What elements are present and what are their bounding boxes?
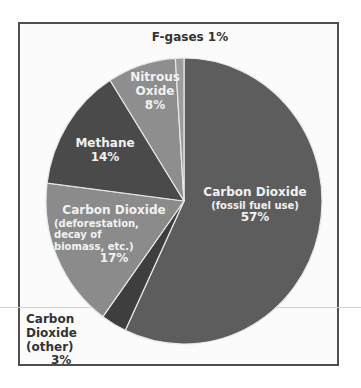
label-nitrous-line2: Oxide — [120, 85, 190, 99]
label-co2-fossil: Carbon Dioxide (fossil fuel use) 57% — [200, 186, 310, 225]
label-methane: Methane 14% — [65, 137, 145, 165]
label-co2-deforestation: Carbon Dioxide (deforestation, decay of … — [54, 204, 174, 266]
label-co2-other-line2: Dioxide (other) — [26, 327, 126, 355]
label-co2-defor-title: Carbon Dioxide — [54, 204, 174, 218]
label-fgases: F-gases 1% — [150, 31, 230, 45]
label-co2-fossil-pct: 57% — [200, 211, 310, 225]
label-methane-title: Methane — [65, 137, 145, 151]
label-nitrous-oxide: Nitrous Oxide 8% — [120, 71, 190, 112]
label-methane-pct: 14% — [65, 151, 145, 165]
label-co2-defor-sub1: (deforestation, decay of — [54, 218, 174, 241]
label-co2-defor-pct: 17% — [54, 252, 174, 266]
label-co2-other-line1: Carbon — [26, 313, 126, 327]
label-co2-other-pct: 3% — [26, 354, 126, 368]
label-nitrous-line1: Nitrous — [120, 71, 190, 85]
label-fgases-text: F-gases 1% — [152, 30, 228, 44]
label-co2-fossil-title: Carbon Dioxide — [200, 186, 310, 200]
label-nitrous-pct: 8% — [120, 99, 190, 113]
label-co2-other: Carbon Dioxide (other) 3% — [26, 313, 126, 368]
